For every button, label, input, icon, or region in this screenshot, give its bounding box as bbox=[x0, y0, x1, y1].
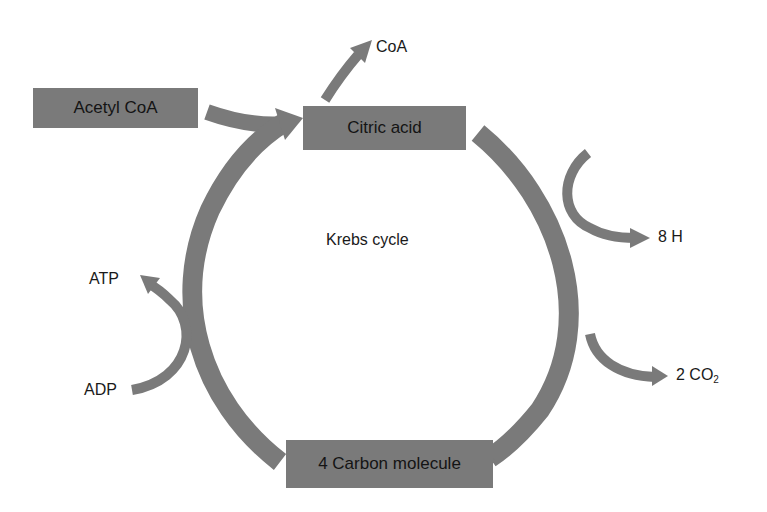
four-carbon-label: 4 Carbon molecule bbox=[318, 454, 461, 474]
four-carbon-box: 4 Carbon molecule bbox=[286, 440, 493, 488]
acetyl-coa-box: Acetyl CoA bbox=[33, 88, 198, 128]
left-cycle-arc bbox=[192, 122, 285, 462]
adp-atp-arrow bbox=[132, 283, 186, 390]
right-cycle-arc bbox=[478, 133, 569, 458]
coa-label: CoA bbox=[376, 38, 407, 56]
arrowhead-8h bbox=[630, 228, 650, 248]
acetyl-coa-label: Acetyl CoA bbox=[73, 98, 157, 118]
atp-label: ATP bbox=[89, 270, 119, 288]
krebs-cycle-center-label: Krebs cycle bbox=[326, 231, 409, 249]
two-co2-label: 2 CO2 bbox=[676, 366, 719, 385]
adp-label: ADP bbox=[84, 381, 117, 399]
krebs-cycle-arrows bbox=[0, 0, 767, 512]
eight-h-label: 8 H bbox=[658, 228, 683, 246]
eight-h-arrow bbox=[567, 153, 635, 238]
coa-release-arrow bbox=[325, 55, 358, 100]
co2-arrow bbox=[590, 334, 655, 377]
arrowhead-co2 bbox=[652, 366, 668, 386]
citric-acid-box: Citric acid bbox=[303, 106, 466, 150]
citric-acid-label: Citric acid bbox=[347, 118, 422, 138]
